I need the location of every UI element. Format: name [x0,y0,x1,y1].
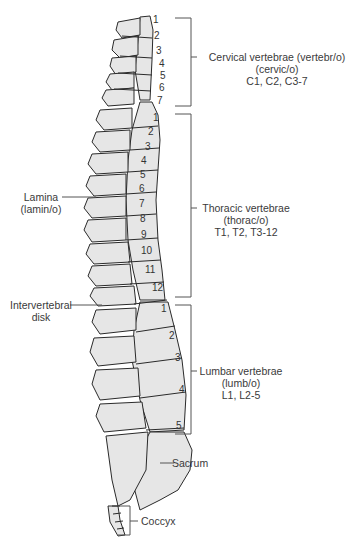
lamina-label: Lamina (lamin/o) [20,191,62,215]
cervical-number: 6 [159,83,165,93]
thoracic-number: 10 [141,246,152,256]
lamina-label-line1: Lamina [20,191,62,203]
thoracic-number: 12 [152,283,163,293]
thoracic-number: 1 [153,113,159,123]
lumbar-number: 3 [175,353,181,363]
cervical-number: 7 [157,96,163,106]
thoracic-number: 6 [139,184,145,194]
cervical-number: 4 [159,59,165,69]
lamina-label-line2: (lamin/o) [20,203,62,215]
thoracic-number: 11 [145,265,155,275]
coccyx-label: Coccyx [141,515,175,527]
lumbar-number: 1 [161,304,167,314]
cervical-number: 5 [160,71,166,81]
thoracic-number: 3 [145,142,151,152]
lumbar-label-line2: (lumb/o) [199,377,283,389]
cervical-label-line1: Cervical vertebrae (vertebr/o) [199,51,355,63]
thoracic-number: 7 [139,199,145,209]
lumbar-number: 5 [176,421,182,431]
thoracic-number: 9 [141,230,147,240]
thoracic-number: 4 [141,156,147,166]
lumbar-number: 4 [179,385,185,395]
cervical-number: 3 [156,46,162,56]
intervertebral-disk-label: Intervertebral disk [10,299,72,323]
thoracic-label-line1: Thoracic vertebrae [196,202,296,214]
cervical-number: 1 [153,15,159,25]
cervical-number: 2 [154,31,160,41]
thoracic-number: 5 [140,170,146,180]
thoracic-label-line3: T1, T2, T3-12 [196,226,296,238]
lumbar-label-line1: Lumbar vertebrae [199,365,283,377]
cervical-label-line3: C1, C2, C3-7 [199,75,355,87]
thoracic-label: Thoracic vertebrae (thorac/o) T1, T2, T3… [196,202,296,238]
thoracic-label-line2: (thorac/o) [196,214,296,226]
lumbar-label-line3: L1, L2-5 [199,389,283,401]
intervertebral-disk-label-line2: disk [10,311,72,323]
intervertebral-disk-label-line1: Intervertebral [10,299,72,311]
thoracic-number: 8 [140,214,146,224]
cervical-label: Cervical vertebrae (vertebr/o) (cervic/o… [199,51,355,87]
thoracic-number: 2 [148,127,154,137]
cervical-label-line2: (cervic/o) [199,63,355,75]
lumbar-number: 2 [169,331,175,341]
sacrum-label: Sacrum [172,457,208,469]
lumbar-label: Lumbar vertebrae (lumb/o) L1, L2-5 [199,365,283,401]
